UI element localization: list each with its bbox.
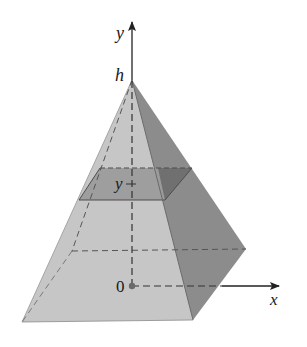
pyramid-diagram: y h y 0 x — [0, 0, 307, 347]
y-axis-label: y — [116, 24, 124, 42]
origin-label: 0 — [116, 278, 125, 295]
apex-label-h: h — [115, 66, 124, 84]
section-height-label: y — [115, 175, 123, 192]
origin-point — [129, 283, 135, 289]
x-axis-label: x — [270, 291, 278, 308]
pyramid-figure — [0, 0, 307, 347]
